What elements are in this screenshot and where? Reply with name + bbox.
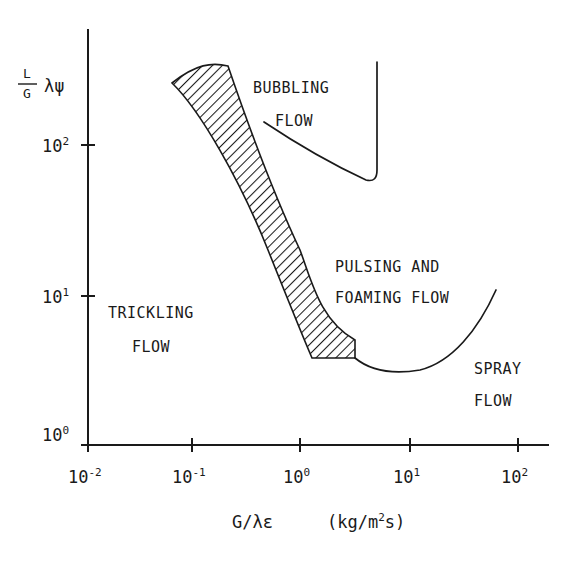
x-axis-title: G/λε (kg/m2s) [232, 511, 405, 532]
x-tick-labels: 10-2 10-1 100 101 102 [68, 466, 528, 487]
x-tick-label-0-01: 10-2 [68, 466, 102, 487]
x-tick-label-0-1: 10-1 [172, 466, 206, 487]
pulsing-foaming-line-1: PULSING AND [335, 258, 440, 276]
spray-flow-line-1: SPRAY [474, 360, 522, 378]
x-tick-label-1: 100 [283, 466, 310, 487]
x-tick-label-100: 102 [501, 466, 528, 487]
spray-flow-line-2: FLOW [474, 392, 513, 410]
y-tick-label-100: 102 [42, 135, 69, 156]
flow-regime-chart: 102 101 100 10-2 10-1 100 101 [0, 0, 565, 570]
y-tick-label-1: 100 [42, 424, 69, 445]
trickling-flow-line-2: FLOW [132, 338, 171, 356]
flow-regime-map-figure: 102 101 100 10-2 10-1 100 101 [0, 0, 565, 570]
x-axis-title-main: G/λε [232, 512, 273, 532]
regime-label-pulsing-and-foaming-flow: PULSING AND FOAMING FLOW [335, 258, 450, 307]
y-tick-label-10: 101 [42, 286, 69, 307]
trickling-flow-line-1: TRICKLING [108, 304, 194, 322]
y-axis-title-numerator: L [23, 66, 31, 81]
bubbling-flow-line-2: FLOW [275, 112, 314, 130]
y-axis-title-suffix: λψ [44, 76, 64, 96]
pulsing-foaming-line-2: FOAMING FLOW [335, 289, 450, 307]
y-tick-labels: 102 101 100 [42, 135, 69, 445]
y-axis-title-denominator: G [23, 86, 31, 101]
x-tick-label-10: 101 [393, 466, 420, 487]
regime-label-spray-flow: SPRAY FLOW [474, 360, 522, 410]
bubbling-flow-line-1: BUBBLING [253, 79, 329, 97]
x-axis-title-units: (kg/m2s) [327, 511, 405, 532]
regime-label-trickling-flow: TRICKLING FLOW [108, 304, 194, 356]
y-axis-title: L G λψ [18, 66, 64, 101]
trickling-to-pulsing-transition-band [172, 64, 355, 358]
